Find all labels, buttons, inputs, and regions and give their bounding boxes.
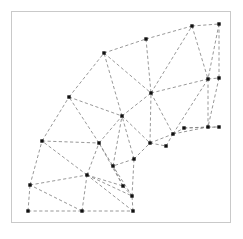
- mesh-node: [67, 95, 70, 98]
- mesh-node: [149, 91, 152, 94]
- mesh-edge: [173, 79, 208, 134]
- mesh-edge: [122, 93, 151, 116]
- mesh-edge: [132, 196, 133, 211]
- mesh-edge: [192, 24, 219, 26]
- mesh-node: [28, 183, 31, 186]
- mesh-node: [217, 125, 220, 128]
- mesh-edge: [151, 93, 173, 134]
- mesh-node: [40, 139, 43, 142]
- mesh-edge: [104, 39, 146, 53]
- mesh-edge: [208, 24, 219, 79]
- mesh-edge: [150, 134, 173, 143]
- mesh-node: [132, 157, 135, 160]
- mesh-edge: [87, 175, 133, 211]
- mesh-edge: [69, 97, 99, 143]
- mesh-edge: [99, 116, 122, 143]
- mesh-edge: [113, 159, 134, 166]
- mesh-edge: [30, 141, 42, 185]
- mesh-edge: [146, 39, 151, 93]
- mesh-node: [26, 209, 29, 212]
- mesh-edge: [208, 78, 219, 127]
- mesh-edge: [104, 53, 122, 116]
- mesh-node: [102, 51, 105, 54]
- mesh-node: [130, 194, 133, 197]
- mesh-diagram: [0, 0, 243, 239]
- mesh-node-layer: [26, 22, 220, 212]
- mesh-node: [206, 125, 209, 128]
- mesh-node: [171, 132, 174, 135]
- mesh-node: [80, 209, 83, 212]
- mesh-edge: [132, 159, 134, 196]
- mesh-edge: [151, 79, 208, 93]
- mesh-edge: [69, 97, 122, 116]
- mesh-node: [190, 24, 193, 27]
- mesh-node: [182, 126, 185, 129]
- mesh-edge: [150, 143, 166, 146]
- mesh-edge: [113, 166, 132, 196]
- mesh-node: [206, 77, 209, 80]
- mesh-edge: [104, 53, 151, 93]
- mesh-edge: [42, 141, 87, 175]
- mesh-edge: [192, 26, 208, 79]
- mesh-node: [148, 141, 151, 144]
- mesh-node: [85, 173, 88, 176]
- mesh-node: [164, 144, 167, 147]
- mesh-edge: [150, 93, 151, 143]
- mesh-edge: [42, 97, 69, 141]
- mesh-node: [97, 141, 100, 144]
- mesh-edge: [30, 185, 82, 211]
- figure-root: [0, 0, 243, 239]
- mesh-node: [111, 164, 114, 167]
- mesh-edge: [28, 185, 30, 211]
- mesh-edge: [30, 175, 87, 185]
- mesh-edge: [146, 26, 192, 39]
- mesh-edge: [42, 141, 99, 143]
- mesh-node: [121, 184, 124, 187]
- mesh-edge: [122, 116, 150, 143]
- mesh-node: [131, 209, 134, 212]
- mesh-edge: [134, 143, 150, 159]
- mesh-edge: [113, 116, 122, 166]
- mesh-node: [144, 37, 147, 40]
- mesh-node: [217, 22, 220, 25]
- mesh-edge: [87, 175, 123, 186]
- mesh-edge: [166, 134, 173, 146]
- mesh-node: [217, 76, 220, 79]
- mesh-edge: [122, 116, 134, 159]
- mesh-edge: [87, 143, 99, 175]
- mesh-edge: [82, 175, 87, 211]
- mesh-edge: [69, 53, 104, 97]
- mesh-node: [120, 114, 123, 117]
